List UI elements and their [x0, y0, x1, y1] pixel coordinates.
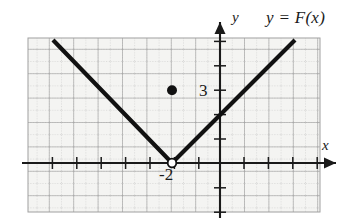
- x-axis-arrow-icon: [324, 158, 336, 169]
- graph-canvas: [0, 0, 358, 223]
- point-value-label: 3: [199, 82, 208, 99]
- x-axis-label: x: [322, 138, 329, 153]
- y-axis-label: y: [232, 10, 239, 25]
- function-graph-figure: y x y = F(x) 3 -2: [0, 0, 358, 223]
- vertex-value-label: -2: [159, 166, 173, 183]
- function-equation-label: y = F(x): [266, 9, 325, 26]
- major-gridlines: [28, 38, 320, 212]
- filled-dot-point: [167, 85, 177, 95]
- y-axis-arrow-icon: [215, 22, 226, 34]
